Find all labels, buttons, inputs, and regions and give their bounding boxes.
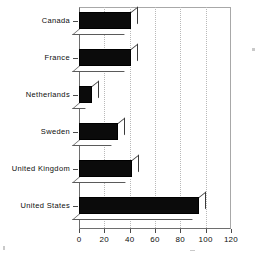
x-axis-label: 40: [118, 235, 142, 245]
x-axis-label: 0: [67, 235, 91, 245]
bar-front-face: [79, 160, 132, 177]
x-axis-label: 80: [168, 235, 192, 245]
bar-side-face: [118, 118, 125, 140]
bar-side-face: [199, 192, 206, 214]
bar-side-face: [132, 155, 139, 177]
bar: [79, 197, 208, 234]
y-axis-tick: [73, 132, 78, 133]
bar-chart: CanadaFranceNetherlandsSwedenUnited King…: [0, 0, 259, 255]
bar-bottom-face: [72, 66, 131, 72]
bar-front-face: [79, 12, 131, 29]
bar-side-face: [131, 7, 138, 29]
x-axis-tick: [130, 229, 131, 233]
y-axis-label: France: [0, 53, 70, 62]
bar: [79, 12, 140, 49]
bar-bottom-face: [72, 214, 199, 220]
x-axis-tick: [104, 229, 105, 233]
bar: [79, 123, 127, 160]
x-axis-label: 100: [194, 235, 218, 245]
x-axis-label: 20: [92, 235, 116, 245]
x-axis-tick: [206, 229, 207, 233]
scan-artifact: [252, 48, 255, 51]
bar-bottom-face: [72, 140, 118, 146]
bar-front-face: [79, 86, 92, 103]
bar: [79, 160, 141, 197]
y-axis-label: United States: [0, 201, 70, 210]
gridline: [155, 7, 156, 228]
y-axis-tick: [73, 21, 78, 22]
bar-front-face: [79, 197, 199, 214]
y-axis-tick: [73, 169, 78, 170]
bar-side-face: [131, 44, 138, 66]
y-axis-label: Sweden: [0, 127, 70, 136]
y-axis-label: Canada: [0, 16, 70, 25]
bar-bottom-face: [72, 177, 132, 183]
x-axis-label: 60: [143, 235, 167, 245]
x-axis-tick: [79, 229, 80, 233]
x-axis-tick: [231, 229, 232, 233]
gridline: [180, 7, 181, 228]
bar-front-face: [79, 49, 131, 66]
bar-bottom-face: [72, 103, 92, 109]
bar-side-face: [92, 81, 99, 103]
bar-front-face: [79, 123, 118, 140]
y-axis-label: United Kingdom: [0, 164, 70, 173]
y-axis-tick: [73, 58, 78, 59]
bar: [79, 86, 101, 123]
x-axis-tick: [180, 229, 181, 233]
scan-artifact: [190, 250, 195, 251]
x-axis-tick: [155, 229, 156, 233]
x-axis-label: 120: [219, 235, 243, 245]
scan-artifact: [3, 246, 5, 250]
y-axis-label: Netherlands: [0, 90, 70, 99]
bar: [79, 49, 140, 86]
y-axis-tick: [73, 206, 78, 207]
bar-bottom-face: [72, 29, 131, 35]
y-axis-tick: [73, 95, 78, 96]
